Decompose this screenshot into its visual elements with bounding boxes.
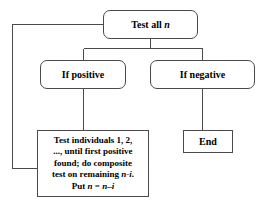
node-test-all: Test all n	[103, 10, 198, 39]
node-if-positive: If positive	[40, 60, 126, 89]
node-if-negative-label: If negative	[180, 69, 225, 81]
node-procedure: Test individuals 1, 2, ..., until first …	[37, 130, 149, 197]
procedure-line-2: ..., until first positive	[53, 146, 132, 158]
flowchart-diagram: Test all n If positive If negative End T…	[0, 0, 262, 208]
node-end-label: End	[199, 136, 217, 148]
node-if-negative: If negative	[150, 60, 255, 89]
procedure-line-1: Test individuals 1, 2,	[54, 135, 132, 147]
node-end: End	[183, 130, 233, 153]
procedure-line-3: found; do composite	[54, 158, 132, 170]
procedure-line-4: test on remaining n-i.	[52, 169, 134, 181]
procedure-line-5: Put n = n–i	[72, 181, 114, 193]
node-test-all-label: Test all n	[131, 19, 170, 31]
node-if-positive-label: If positive	[62, 69, 105, 81]
